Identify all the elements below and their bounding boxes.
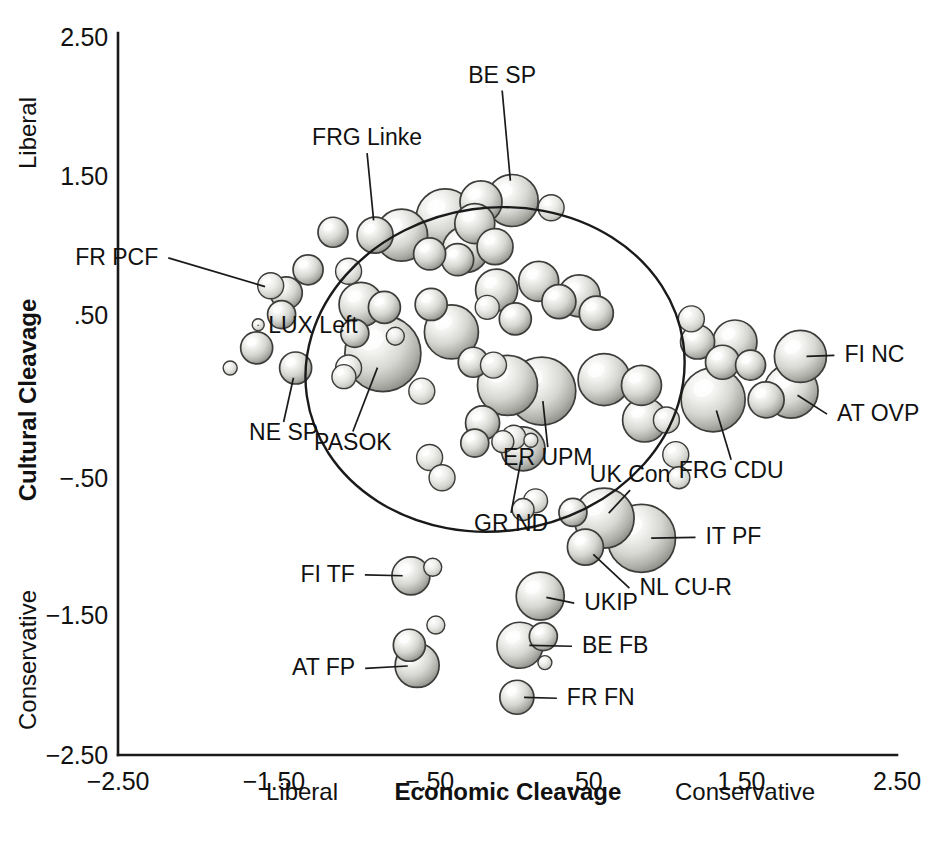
x-axis-title: Economic Cleavage	[395, 778, 622, 805]
leader-line	[367, 153, 374, 220]
bubble	[252, 319, 264, 331]
point-label: AT OVP	[837, 400, 919, 426]
point-label: NL CU-R	[639, 574, 731, 600]
y-tick-label: 1.50	[60, 162, 108, 190]
bubble	[461, 429, 489, 457]
y-axis-title: Cultural Cleavage	[14, 299, 41, 502]
y-tick-label: −2.50	[46, 741, 108, 769]
leader-line	[529, 645, 572, 646]
bubble-chart: BE SPFRG LinkeFR PCFLUX LeftNE SPPASOKER…	[0, 0, 939, 842]
y-tick-label: .50	[74, 301, 108, 329]
bubble	[706, 345, 740, 379]
bubble	[223, 361, 237, 375]
y-tick-label: −1.50	[46, 601, 108, 629]
bubble	[538, 195, 564, 221]
point-label: IT PF	[705, 523, 761, 549]
bubble	[318, 217, 348, 247]
point-label: UKIP	[584, 589, 638, 615]
y-axis-pole-low-label: Conservative	[14, 590, 41, 730]
point-label: FI NC	[844, 341, 904, 367]
bubble	[579, 296, 613, 330]
bubble	[393, 629, 425, 661]
bubble	[475, 295, 499, 319]
point-label: FR FN	[567, 684, 635, 710]
bubble	[480, 352, 506, 378]
bubble	[332, 365, 356, 389]
point-label: LUX Left	[268, 312, 358, 338]
bubble	[736, 350, 766, 380]
leader-line	[807, 355, 835, 356]
point-label: ER UPM	[503, 444, 592, 470]
bubble	[499, 303, 531, 335]
plot-canvas: BE SPFRG LinkeFR PCFLUX LeftNE SPPASOKER…	[0, 0, 939, 842]
bubble	[477, 229, 513, 265]
y-axis-pole-high-label: Liberal	[14, 97, 41, 169]
bubble	[516, 572, 564, 620]
y-tick-label: 2.50	[60, 23, 108, 51]
bubble	[293, 255, 323, 285]
bubble	[424, 558, 442, 576]
y-tick-labels: 2.501.50.50−.50−1.50−2.50	[46, 23, 108, 769]
bubble	[542, 285, 576, 319]
bubble	[427, 616, 445, 634]
leader-line	[284, 378, 294, 422]
bubble	[538, 656, 552, 670]
bubble	[442, 244, 474, 276]
bubble	[621, 365, 661, 405]
bubble	[415, 288, 447, 320]
x-tick-label: −2.50	[87, 767, 149, 795]
x-tick-label: 2.50	[873, 767, 921, 795]
leader-line	[365, 575, 403, 576]
bubble	[414, 238, 446, 270]
point-label: PASOK	[314, 429, 392, 455]
bubble	[409, 378, 435, 404]
y-tick-label: −.50	[59, 464, 108, 492]
leader-line	[502, 91, 510, 181]
bubble	[678, 306, 704, 332]
leader-line	[524, 697, 557, 698]
leader-line	[168, 258, 265, 287]
point-label: FRG CDU	[679, 457, 784, 483]
point-label: FRG Linke	[312, 124, 422, 150]
point-label: GR ND	[474, 510, 548, 536]
bubble	[748, 382, 784, 418]
bubble	[368, 291, 400, 323]
point-label: BE FB	[582, 632, 648, 658]
point-label: FI TF	[300, 561, 355, 587]
x-axis-pole-high-label: Conservative	[675, 778, 815, 805]
point-label: NE SP	[249, 419, 318, 445]
bubble	[386, 327, 404, 345]
point-label: BE SP	[468, 62, 536, 88]
x-axis-pole-low-label: Liberal	[266, 778, 338, 805]
bubble	[429, 465, 455, 491]
point-label: UK Con	[590, 461, 671, 487]
point-label: FR PCF	[75, 244, 158, 270]
leader-line	[651, 537, 695, 538]
bubble	[559, 498, 587, 526]
point-label: AT FP	[292, 654, 355, 680]
